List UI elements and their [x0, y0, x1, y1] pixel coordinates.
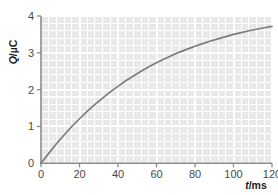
- chart-figure: 020406080100120 01234 t/ms Q/µC: [0, 0, 278, 195]
- x-axis-tick-labels: 020406080100120: [38, 168, 278, 180]
- y-tick-label: 1: [28, 120, 34, 132]
- x-tick-label: 20: [73, 168, 85, 180]
- x-tick-label: 40: [112, 168, 124, 180]
- y-axis-title: Q/µC: [7, 39, 19, 64]
- y-tick-label: 4: [28, 10, 34, 22]
- x-tick-label: 100: [224, 168, 242, 180]
- x-axis-title: t/ms: [245, 179, 267, 191]
- y-axis-tick-labels: 01234: [28, 10, 34, 169]
- y-tick-label: 0: [28, 157, 34, 169]
- y-tick-label: 2: [28, 84, 34, 96]
- chart-svg: 020406080100120 01234 t/ms Q/µC: [0, 0, 278, 195]
- x-tick-label: 0: [38, 168, 44, 180]
- x-tick-label: 60: [150, 168, 162, 180]
- y-tick-label: 3: [28, 47, 34, 59]
- x-tick-label: 80: [189, 168, 201, 180]
